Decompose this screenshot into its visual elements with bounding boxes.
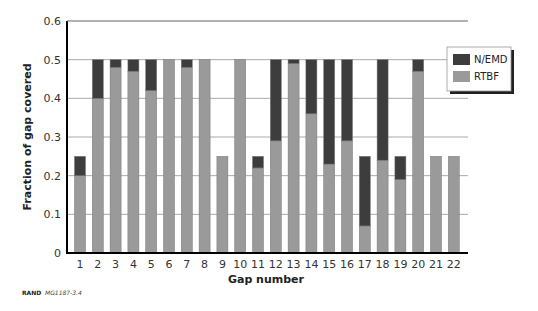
bar-segment-rtbf bbox=[431, 156, 442, 253]
bar-segment-nemd bbox=[92, 60, 103, 99]
x-tick-label: 10 bbox=[233, 258, 247, 271]
bar-segment-nemd bbox=[359, 156, 370, 226]
bar-segment-rtbf bbox=[359, 226, 370, 253]
credit-id: MG1187-3.4 bbox=[45, 289, 82, 296]
bar-segment-rtbf bbox=[75, 176, 86, 253]
x-tick-label: 19 bbox=[393, 258, 407, 271]
bar-segment-nemd bbox=[395, 156, 406, 179]
x-tick-label: 15 bbox=[322, 258, 336, 271]
bar-segment-rtbf bbox=[128, 71, 139, 253]
y-axis-title: Fraction of gap covered bbox=[21, 63, 34, 210]
legend-swatch-nemd bbox=[453, 54, 470, 65]
x-tick-label: 17 bbox=[358, 258, 372, 271]
bar-segment-rtbf bbox=[253, 168, 264, 253]
bar-segment-nemd bbox=[270, 60, 281, 141]
bar-segment-rtbf bbox=[413, 71, 424, 253]
gridlines bbox=[67, 60, 468, 215]
bar-segment-rtbf bbox=[181, 67, 192, 253]
x-tick-label: 16 bbox=[340, 258, 354, 271]
bar-segment-rtbf bbox=[164, 60, 175, 253]
bar-segment-rtbf bbox=[342, 141, 353, 253]
x-tick-label: 9 bbox=[219, 258, 226, 271]
x-tick-label: 11 bbox=[251, 258, 265, 271]
x-tick-label: 22 bbox=[447, 258, 461, 271]
bar-segment-nemd bbox=[181, 60, 192, 68]
bar-segment-nemd bbox=[128, 60, 139, 72]
bar-segment-rtbf bbox=[110, 67, 121, 253]
x-axis-title: Gap number bbox=[228, 273, 305, 286]
legend-label-rtbf: RTBF bbox=[474, 71, 499, 82]
credit-org: RAND bbox=[22, 289, 41, 296]
y-tick-label: 0.1 bbox=[44, 208, 62, 221]
bar-segment-nemd bbox=[110, 60, 121, 68]
x-tick-label: 1 bbox=[77, 258, 84, 271]
bar-segment-nemd bbox=[413, 60, 424, 72]
x-tick-label: 13 bbox=[287, 258, 301, 271]
bar-segment-nemd bbox=[342, 60, 353, 141]
bar-segment-rtbf bbox=[92, 98, 103, 253]
bar-segment-nemd bbox=[306, 60, 317, 114]
x-tick-label: 6 bbox=[166, 258, 173, 271]
x-tick-label: 5 bbox=[148, 258, 155, 271]
legend-swatch-rtbf bbox=[453, 71, 470, 82]
bar-segment-rtbf bbox=[288, 64, 299, 253]
bar-segment-nemd bbox=[324, 60, 335, 164]
x-tick-label: 18 bbox=[376, 258, 390, 271]
bar-segment-rtbf bbox=[377, 160, 388, 253]
bar-segment-rtbf bbox=[217, 156, 228, 253]
x-tick-label: 21 bbox=[429, 258, 443, 271]
x-tick-label: 12 bbox=[269, 258, 283, 271]
x-tick-label: 7 bbox=[183, 258, 190, 271]
bar-segment-nemd bbox=[253, 156, 264, 168]
x-tick-labels: 12345678910111213141516171819202122 bbox=[77, 258, 461, 271]
legend: N/EMD RTBF bbox=[447, 47, 514, 94]
y-tick-label: 0.6 bbox=[44, 15, 62, 28]
x-tick-label: 4 bbox=[130, 258, 137, 271]
y-tick-label: 0.2 bbox=[44, 170, 62, 183]
bar-segment-rtbf bbox=[199, 60, 210, 253]
bars bbox=[75, 60, 460, 253]
bar-segment-rtbf bbox=[448, 156, 459, 253]
bar-segment-rtbf bbox=[324, 164, 335, 253]
y-tick-label: 0.3 bbox=[44, 131, 62, 144]
legend-label-nemd: N/EMD bbox=[474, 54, 508, 65]
x-tick-label: 2 bbox=[94, 258, 101, 271]
y-tick-label: 0.4 bbox=[44, 92, 62, 105]
bar-segment-rtbf bbox=[306, 114, 317, 253]
bar-segment-nemd bbox=[146, 60, 157, 91]
x-tick-label: 20 bbox=[411, 258, 425, 271]
y-tick-label: 0 bbox=[54, 247, 61, 260]
bar-segment-nemd bbox=[377, 60, 388, 161]
bar-segment-rtbf bbox=[395, 180, 406, 253]
stacked-bar-chart: 00.10.20.30.40.50.6 12345678910111213141… bbox=[0, 0, 538, 311]
bar-segment-rtbf bbox=[235, 60, 246, 253]
x-tick-label: 3 bbox=[112, 258, 119, 271]
y-tick-label: 0.5 bbox=[44, 54, 62, 67]
y-tick-labels: 00.10.20.30.40.50.6 bbox=[44, 15, 62, 260]
x-tick-label: 14 bbox=[304, 258, 318, 271]
bar-segment-rtbf bbox=[270, 141, 281, 253]
x-tick-label: 8 bbox=[201, 258, 208, 271]
bar-segment-nemd bbox=[75, 156, 86, 175]
bar-segment-nemd bbox=[288, 60, 299, 64]
bar-segment-rtbf bbox=[146, 91, 157, 253]
